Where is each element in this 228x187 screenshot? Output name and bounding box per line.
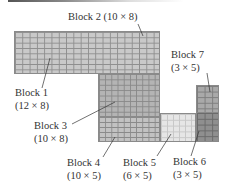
block-3-grid — [98, 74, 160, 117]
block-3-name: Block 3 — [34, 119, 68, 132]
block-1-name: Block 1 — [15, 86, 49, 99]
block-6-dims: (3 × 5) — [173, 168, 206, 181]
block-2-name: Block 2 (10 × 8) — [68, 11, 138, 22]
block-5-name: Block 5 — [123, 156, 156, 169]
block-7-label: Block 7 (3 × 5) — [171, 48, 204, 74]
block-6-name: Block 6 — [173, 155, 206, 168]
top-rule — [8, 0, 228, 2]
block-1-label: Block 1 (12 × 8) — [15, 86, 49, 112]
block-2-label: Block 2 (10 × 8) — [68, 10, 138, 23]
block-6-grid — [196, 113, 219, 142]
block-1-dims: (12 × 8) — [15, 99, 49, 112]
block-1-2-grid — [14, 31, 160, 74]
block-5-grid — [160, 113, 196, 142]
block-5-dims: (6 × 5) — [123, 169, 156, 182]
block-4-dims: (10 × 5) — [67, 169, 101, 182]
block-6-label: Block 6 (3 × 5) — [173, 155, 206, 181]
block-3-dims: (10 × 8) — [34, 132, 68, 145]
block-5-label: Block 5 (6 × 5) — [123, 156, 156, 182]
block-4-grid — [98, 117, 160, 142]
block-4-name: Block 4 — [67, 156, 101, 169]
block-3-label: Block 3 (10 × 8) — [34, 119, 68, 145]
block-7-name: Block 7 — [171, 48, 204, 61]
block-7-grid — [196, 85, 219, 113]
block-7-dims: (3 × 5) — [171, 61, 204, 74]
block-4-label: Block 4 (10 × 5) — [67, 156, 101, 182]
